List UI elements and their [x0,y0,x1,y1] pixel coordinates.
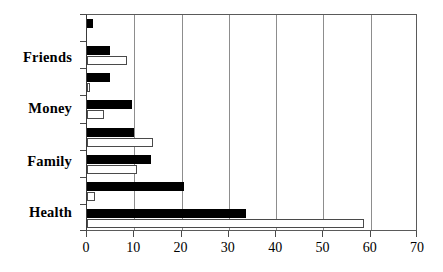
x-tick [181,231,182,237]
x-tick-label: 30 [221,240,235,256]
x-tick [370,231,371,237]
x-tick [275,231,276,237]
x-tick-label: 0 [83,240,90,256]
bar-chart: Friends Money Family Health 010203040506… [0,0,443,272]
gridline [134,15,135,230]
y-axis-label-family: Family [0,154,72,169]
bar-white-3 [87,110,104,119]
x-tick [86,231,87,237]
bar-black-0 [87,19,93,28]
gridline [182,15,183,230]
plot-area [86,14,417,231]
x-axis-ticks [86,231,417,238]
bar-white-6 [87,192,95,201]
bar-white-7 [87,219,364,228]
bar-black-5 [87,155,151,164]
bar-white-5 [87,165,137,174]
bar-black-1 [87,46,110,55]
gridline [371,15,372,230]
bar-black-7 [87,209,246,218]
x-tick-label: 10 [126,240,140,256]
x-tick-label: 70 [410,240,424,256]
x-tick-label: 50 [315,240,329,256]
bar-black-4 [87,128,134,137]
bar-black-3 [87,100,132,109]
bar-white-4 [87,138,153,147]
x-tick [322,231,323,237]
x-tick-label: 20 [174,240,188,256]
bar-black-6 [87,182,184,191]
x-axis-tick-labels: 010203040506070 [0,240,443,264]
y-axis-label-friends: Friends [0,50,72,65]
x-tick [228,231,229,237]
x-tick [416,231,417,237]
bar-white-1 [87,56,127,65]
gridline [323,15,324,230]
gridline [229,15,230,230]
gridline [276,15,277,230]
y-axis-label-health: Health [0,205,72,220]
x-tick-label: 40 [268,240,282,256]
bar-white-2 [87,83,90,92]
bar-black-2 [87,73,110,82]
y-axis-category-labels: Friends Money Family Health [0,14,78,231]
y-axis-label-money: Money [0,101,72,116]
x-tick [133,231,134,237]
x-tick-label: 60 [363,240,377,256]
